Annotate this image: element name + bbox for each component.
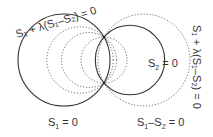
intersection-point-bottom [103, 82, 106, 85]
family-circle-4 [81, 37, 127, 83]
label-family-right: S₁ + λ(S₁–S₂) = 0 [191, 25, 203, 109]
intersection-point-top [103, 36, 106, 39]
label-s2: S2 = 0 [148, 57, 178, 71]
label-s1: S1 = 0 [48, 116, 78, 130]
circle-family-diagram: S₁ + λ(S₁–S₂) = 0 S₁ + λ(S₁–S₂) = 0 S2 =… [0, 0, 213, 137]
label-family-left: S₁ + λ(S₁–S₂) = 0 [14, 4, 98, 40]
label-radical-axis: S1–S2 = 0 [137, 116, 184, 130]
family-circle-3 [62, 33, 117, 88]
